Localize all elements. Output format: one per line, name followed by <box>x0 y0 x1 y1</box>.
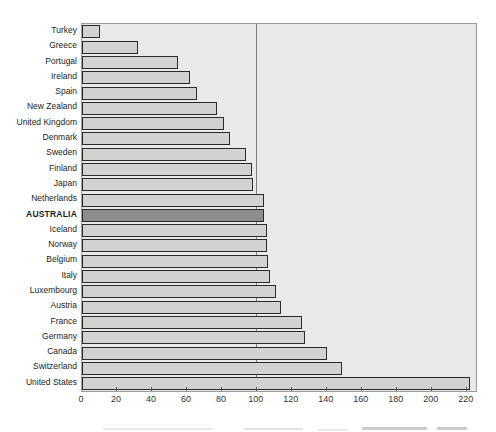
bar-luxembourg <box>82 285 276 298</box>
x-tick-120 <box>291 387 292 391</box>
x-tick-160 <box>361 387 362 391</box>
y-label-germany: Germany <box>0 329 77 344</box>
bar-new-zealand <box>82 102 217 115</box>
x-tick-label-100: 100 <box>241 394 271 404</box>
bar-iceland <box>82 224 267 237</box>
x-tick-200 <box>431 387 432 391</box>
x-tick-label-200: 200 <box>416 394 446 404</box>
y-label-austria: Austria <box>0 298 77 313</box>
y-label-japan: Japan <box>0 176 77 191</box>
bar-chart-figure: TurkeyGreecePortugalIrelandSpainNew Zeal… <box>0 0 496 432</box>
x-tick-40 <box>151 387 152 391</box>
bar-turkey <box>82 25 100 38</box>
y-label-ireland: Ireland <box>0 69 77 84</box>
y-label-canada: Canada <box>0 344 77 359</box>
bar-austria <box>82 301 281 314</box>
y-label-france: France <box>0 314 77 329</box>
x-tick-label-160: 160 <box>346 394 376 404</box>
x-tick-100 <box>256 387 257 391</box>
bar-ireland <box>82 71 190 84</box>
bar-portugal <box>82 56 178 69</box>
x-tick-140 <box>326 387 327 391</box>
y-label-turkey: Turkey <box>0 23 77 38</box>
y-label-denmark: Denmark <box>0 130 77 145</box>
bar-netherlands <box>82 194 264 207</box>
x-axis-labels: 020406080100120140160180200220 <box>0 394 496 408</box>
x-tick-label-80: 80 <box>206 394 236 404</box>
x-tick-label-220: 220 <box>451 394 481 404</box>
y-label-belgium: Belgium <box>0 252 77 267</box>
cropped-caption-smudge <box>362 427 427 430</box>
x-tick-label-140: 140 <box>311 394 341 404</box>
y-label-united-states: United States <box>0 375 77 390</box>
x-tick-label-40: 40 <box>136 394 166 404</box>
cropped-caption-smudge <box>318 429 348 431</box>
y-label-portugal: Portugal <box>0 54 77 69</box>
bar-united-states <box>82 377 470 390</box>
x-tick-label-120: 120 <box>276 394 306 404</box>
bar-finland <box>82 163 252 176</box>
bar-united-kingdom <box>82 117 224 130</box>
x-tick-220 <box>466 387 467 391</box>
x-tick-80 <box>221 387 222 391</box>
bar-greece <box>82 41 138 54</box>
x-tick-label-20: 20 <box>101 394 131 404</box>
x-tick-label-60: 60 <box>171 394 201 404</box>
bar-italy <box>82 270 270 283</box>
x-tick-180 <box>396 387 397 391</box>
y-label-sweden: Sweden <box>0 145 77 160</box>
cropped-caption-smudge <box>437 427 467 430</box>
bar-germany <box>82 331 305 344</box>
cropped-caption-smudge <box>243 428 303 430</box>
bar-denmark <box>82 132 230 145</box>
bar-australia <box>82 209 264 222</box>
bar-belgium <box>82 255 268 268</box>
plot-area <box>81 23 477 392</box>
y-label-netherlands: Netherlands <box>0 191 77 206</box>
y-label-australia: AUSTRALIA <box>0 207 77 222</box>
y-label-new-zealand: New Zealand <box>0 99 77 114</box>
bar-norway <box>82 239 267 252</box>
x-tick-label-0: 0 <box>66 394 96 404</box>
bar-sweden <box>82 148 246 161</box>
x-tick-label-180: 180 <box>381 394 411 404</box>
y-label-switzerland: Switzerland <box>0 359 77 374</box>
y-label-iceland: Iceland <box>0 222 77 237</box>
y-label-finland: Finland <box>0 161 77 176</box>
y-axis-labels: TurkeyGreecePortugalIrelandSpainNew Zeal… <box>0 23 77 390</box>
x-tick-60 <box>186 387 187 391</box>
y-label-norway: Norway <box>0 237 77 252</box>
y-label-united-kingdom: United Kingdom <box>0 115 77 130</box>
bar-spain <box>82 87 197 100</box>
bar-switzerland <box>82 362 342 375</box>
y-label-spain: Spain <box>0 84 77 99</box>
bar-france <box>82 316 302 329</box>
bar-canada <box>82 347 327 360</box>
x-tick-20 <box>116 387 117 391</box>
y-label-italy: Italy <box>0 268 77 283</box>
bar-japan <box>82 178 253 191</box>
y-label-greece: Greece <box>0 38 77 53</box>
y-label-luxembourg: Luxembourg <box>0 283 77 298</box>
cropped-caption-smudge <box>103 428 213 430</box>
